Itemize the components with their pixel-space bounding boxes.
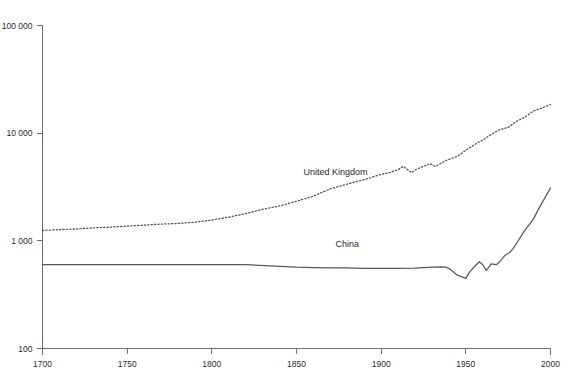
line-chart: 1001 00010 000100 000 170017501800185019…: [0, 0, 567, 375]
x-tick-label: 1800: [202, 359, 221, 369]
x-tick-label: 1950: [456, 359, 475, 369]
x-tick-label: 1700: [33, 359, 52, 369]
series-label-united-kingdom: United Kingdom: [303, 167, 367, 177]
x-tick-label: 1850: [287, 359, 306, 369]
x-axis-ticks: 1700175018001850190019502000: [33, 349, 560, 369]
y-tick-label: 100 000: [2, 21, 33, 31]
y-tick-label: 1 000: [11, 236, 33, 246]
series-label-china: China: [336, 239, 360, 249]
y-tick-label: 10 000: [7, 128, 33, 138]
x-tick-label: 1750: [118, 359, 137, 369]
series-line-united-kingdom: [43, 104, 551, 230]
x-tick-label: 2000: [541, 359, 560, 369]
chart-container: 1001 00010 000100 000 170017501800185019…: [0, 0, 567, 375]
series-lines: [43, 104, 551, 278]
y-axis-ticks: 1001 00010 000100 000: [2, 21, 43, 354]
series-inline-labels: United KingdomChina: [303, 167, 367, 248]
y-tick-label: 100: [18, 344, 32, 354]
x-tick-label: 1900: [372, 359, 391, 369]
